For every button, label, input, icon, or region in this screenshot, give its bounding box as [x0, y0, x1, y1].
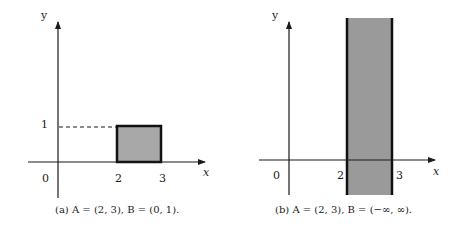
tick-x-2-a: 2 [115, 172, 122, 185]
caption-b: (b) A = (2, 3), B = (−∞, ∞). [275, 204, 412, 215]
tick-x-3-a: 3 [159, 172, 166, 185]
tick-y-1-a: 1 [41, 118, 48, 131]
tick-origin-a: 0 [42, 172, 49, 185]
figure: y x 1 0 2 3 y x 0 2 3 [0, 0, 459, 232]
x-axis-label-a: x [203, 166, 210, 179]
tick-x-2-b: 2 [337, 169, 344, 182]
y-axis-label-a: y [40, 9, 48, 22]
x-axis-label-b: x [433, 165, 440, 178]
region-a-rect [117, 126, 161, 162]
caption-a: (a) A = (2, 3), B = (0, 1). [55, 204, 179, 215]
region-b-band [347, 18, 392, 195]
panel-a: y x 1 0 2 3 [28, 9, 210, 198]
tick-x-3-b: 3 [396, 169, 403, 182]
y-axis-label-b: y [271, 9, 279, 22]
tick-origin-b: 0 [273, 169, 280, 182]
panel-b: y x 0 2 3 [259, 9, 440, 195]
